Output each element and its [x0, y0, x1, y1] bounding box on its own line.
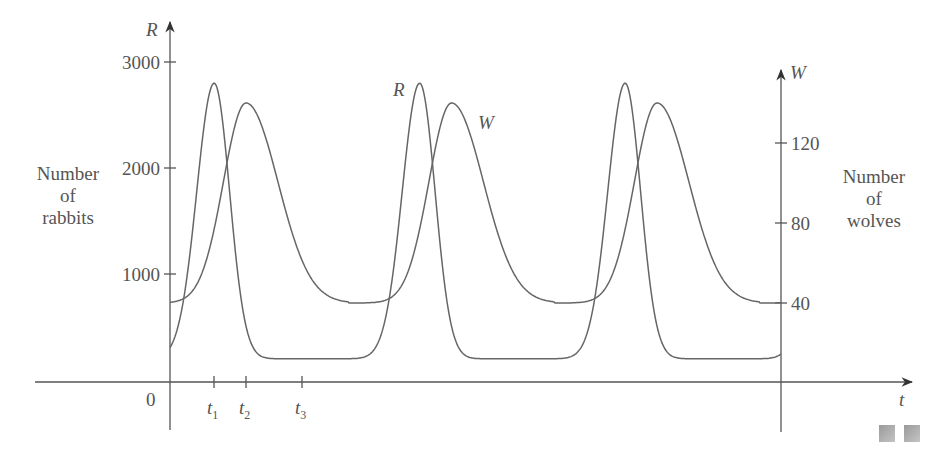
curve-label-r: R	[393, 80, 405, 99]
t1-label: t1	[207, 398, 218, 421]
r-title-line3: rabbits	[18, 208, 118, 227]
w-title-line1: Number	[824, 167, 924, 186]
w-title-line3: wolves	[824, 211, 924, 230]
nav-square-left	[879, 425, 895, 442]
nav-square-right	[904, 425, 920, 442]
w-axis-letter: W	[790, 63, 806, 82]
r-title-line1: Number	[18, 164, 118, 183]
wolf-curve	[170, 103, 781, 303]
t2-label: t2	[239, 398, 250, 421]
origin-label: 0	[146, 390, 156, 409]
w-title-line2: of	[824, 189, 924, 208]
r-title-line2: of	[18, 186, 118, 205]
r-tick-1000: 1000	[100, 265, 160, 284]
r-axis-letter: R	[146, 20, 158, 39]
t3-label: t3	[295, 398, 306, 421]
w-tick-40: 40	[791, 294, 810, 313]
r-tick-3000: 3000	[100, 53, 160, 72]
w-tick-80: 80	[791, 214, 810, 233]
w-tick-120: 120	[791, 134, 820, 153]
curve-label-w: W	[478, 113, 494, 132]
t-axis-letter: t	[899, 390, 904, 409]
